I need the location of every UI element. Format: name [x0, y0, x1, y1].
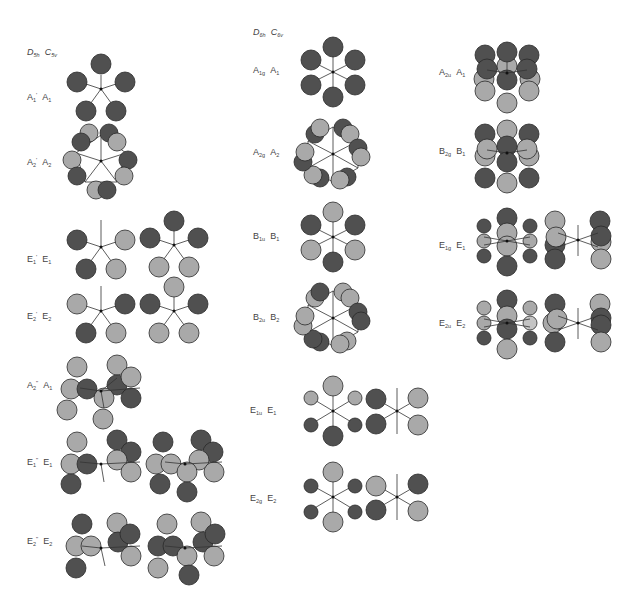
orbital-e2p-a [67, 286, 135, 343]
orbital-b2u [294, 283, 370, 353]
orbital-a1p [67, 54, 135, 121]
orbital-e2pp-b [148, 512, 225, 585]
orbital-e2u-b [543, 294, 611, 352]
orbital-e1p-b [140, 211, 208, 277]
orbital-b1u [301, 202, 365, 272]
orbital-e1pp-a [61, 430, 141, 494]
orbital-a2pp [57, 355, 141, 429]
orbital-e1u-a [304, 376, 362, 446]
orbital-e2pp-a [66, 513, 141, 578]
orbital-a2p [63, 124, 137, 199]
orbital-diagram: .D { fill:#505050; stroke:#2a2a2a; strok… [0, 0, 633, 602]
orbital-a2g [294, 119, 370, 189]
orbital-e2g-b [366, 474, 428, 521]
orbital-a2u [474, 42, 540, 113]
orbital-b2g [475, 120, 539, 193]
orbital-e2p-b [140, 277, 208, 343]
orbital-e1u-b [366, 388, 428, 435]
orbital-e1g-a [477, 208, 537, 276]
orbital-e1p-a [67, 220, 135, 279]
orbital-e1pp-b [146, 430, 224, 502]
orbital-e2u-a [477, 290, 537, 359]
orbital-a1g [301, 37, 365, 107]
orbital-e2g-a [304, 462, 362, 532]
orbital-e1g-b [545, 211, 611, 269]
